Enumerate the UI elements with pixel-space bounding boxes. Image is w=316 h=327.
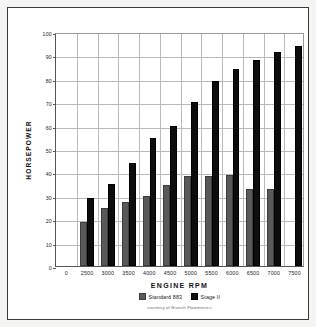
x-tick-label: 7500: [288, 270, 301, 276]
x-axis-title: ENGINE RPM: [55, 282, 304, 289]
bar-standard-883: [122, 202, 129, 266]
x-tick-label: 6500: [247, 270, 260, 276]
x-tick-label: 3500: [122, 270, 135, 276]
y-tick-label: 0: [49, 265, 52, 271]
bar-group: [56, 34, 77, 266]
y-tick-label: 100: [43, 31, 52, 37]
bar-stage-ii: [87, 198, 94, 266]
bar-group: [77, 34, 98, 266]
bar-group: [222, 34, 243, 266]
x-tick-label: 6000: [226, 270, 239, 276]
legend-label: Standard 883: [149, 294, 183, 300]
bar-standard-883: [80, 222, 87, 266]
bar-stage-ii: [108, 184, 115, 266]
bar-standard-883: [205, 176, 212, 266]
bar-stage-ii: [191, 102, 198, 266]
bar-stage-ii: [129, 163, 136, 266]
y-tick-label: 10: [46, 242, 52, 248]
bar-standard-883: [267, 189, 274, 266]
bar-stage-ii: [170, 126, 177, 266]
bar-standard-883: [101, 208, 108, 267]
chart-annotation: courtesy of Branch Flowmetrics: [55, 305, 304, 310]
bar-group: [264, 34, 285, 266]
x-tick-label: 5000: [185, 270, 198, 276]
x-tick-label: 5500: [205, 270, 218, 276]
legend-swatch-icon: [139, 293, 146, 300]
bar-group: [284, 34, 305, 266]
y-tick-label: 20: [46, 218, 52, 224]
y-tick-mark: [53, 268, 56, 269]
x-tick-label: 7000: [268, 270, 281, 276]
figure-background: HORSEPOWER 01020304050607080901000250030…: [0, 0, 316, 327]
bar-stage-ii: [295, 46, 302, 266]
bar-group: [160, 34, 181, 266]
y-tick-label: 50: [46, 148, 52, 154]
bar-stage-ii: [233, 69, 240, 266]
bar-standard-883: [246, 189, 253, 266]
bar-stage-ii: [150, 138, 157, 266]
bar-stage-ii: [274, 52, 281, 266]
figure-border: HORSEPOWER 01020304050607080901000250030…: [7, 7, 309, 320]
y-tick-label: 70: [46, 101, 52, 107]
bar-group: [98, 34, 119, 266]
bar-standard-883: [226, 175, 233, 266]
bar-group: [139, 34, 160, 266]
x-tick-label: 0: [65, 270, 68, 276]
x-tick-label: 4000: [143, 270, 156, 276]
legend-label: Stage II: [201, 294, 220, 300]
y-tick-label: 30: [46, 195, 52, 201]
y-tick-label: 80: [46, 78, 52, 84]
bar-standard-883: [143, 196, 150, 266]
bar-group: [243, 34, 264, 266]
y-tick-label: 60: [46, 125, 52, 131]
x-tick-label: 2500: [81, 270, 94, 276]
legend-item: Stage II: [191, 293, 220, 300]
bar-group: [201, 34, 222, 266]
y-axis-title: HORSEPOWER: [22, 33, 34, 267]
legend-item: Standard 883: [139, 293, 182, 300]
bar-group: [118, 34, 139, 266]
y-tick-label: 40: [46, 171, 52, 177]
bar-stage-ii: [212, 81, 219, 266]
y-tick-label: 90: [46, 54, 52, 60]
plot-area: 0102030405060708090100025003000350040004…: [55, 33, 304, 267]
x-tick-label: 4500: [164, 270, 177, 276]
legend-swatch-icon: [191, 293, 198, 300]
bar-standard-883: [163, 185, 170, 266]
x-tick-label: 3000: [102, 270, 115, 276]
bar-standard-883: [184, 176, 191, 266]
chart-legend: Standard 883Stage II: [55, 293, 304, 300]
bar-stage-ii: [253, 60, 260, 266]
bar-group: [181, 34, 202, 266]
